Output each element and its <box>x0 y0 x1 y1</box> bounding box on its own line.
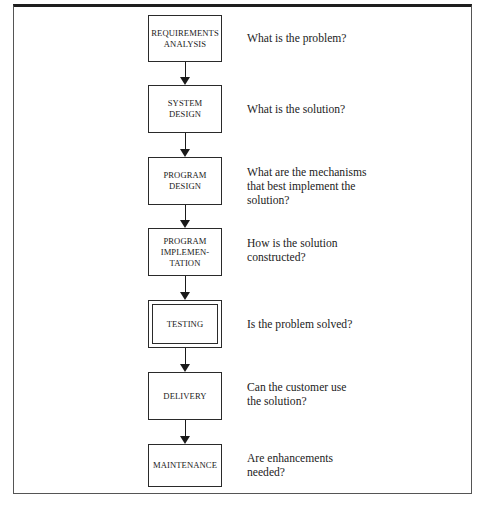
step-delivery: DELIVERY <box>148 372 222 420</box>
diagram-frame <box>13 4 472 494</box>
step-testing: TESTING <box>148 300 222 348</box>
step-label: MAINTENANCE <box>153 460 217 471</box>
arrow-head-icon <box>180 364 190 372</box>
question-maintenance: Are enhancements needed? <box>247 452 333 480</box>
step-label: REQUIREMENTS ANALYSIS <box>151 28 219 50</box>
step-testing-inner-border: TESTING <box>152 304 218 344</box>
question-testing: Is the problem solved? <box>247 318 352 332</box>
step-system-design: SYSTEM DESIGN <box>148 85 222 133</box>
question-program-design: What are the mechanisms that best implem… <box>247 166 366 208</box>
question-program-implementation: How is the solution constructed? <box>247 237 338 265</box>
arrow-head-icon <box>180 292 190 300</box>
arrow-line <box>185 348 186 365</box>
arrow-line <box>185 420 186 437</box>
arrow-head-icon <box>180 77 190 85</box>
step-program-implementation: PROGRAM IMPLEMEN- TATION <box>148 228 222 276</box>
step-label: PROGRAM DESIGN <box>163 170 206 192</box>
question-delivery: Can the customer use the solution? <box>247 381 347 409</box>
arrow-line <box>185 205 186 221</box>
question-system-design: What is the solution? <box>247 103 345 117</box>
arrow-line <box>185 133 186 150</box>
question-requirements-analysis: What is the problem? <box>247 32 346 46</box>
step-label: PROGRAM IMPLEMEN- TATION <box>161 236 210 269</box>
arrow-line <box>185 276 186 293</box>
arrow-head-icon <box>180 149 190 157</box>
arrow-head-icon <box>180 220 190 228</box>
step-requirements-analysis: REQUIREMENTS ANALYSIS <box>148 15 222 62</box>
step-program-design: PROGRAM DESIGN <box>148 157 222 205</box>
step-label: DELIVERY <box>163 391 206 402</box>
arrow-head-icon <box>180 436 190 444</box>
step-maintenance: MAINTENANCE <box>148 444 222 487</box>
step-label: TESTING <box>167 319 204 330</box>
arrow-line <box>185 62 186 78</box>
step-label: SYSTEM DESIGN <box>168 98 203 120</box>
